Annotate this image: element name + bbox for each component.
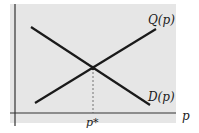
equilibrium-point <box>91 66 95 70</box>
equilibrium-price-label: p* <box>86 117 99 128</box>
supply-curve <box>35 29 156 103</box>
demand-curve-label: D(p) <box>148 91 175 103</box>
supply-curve-label: Q(p) <box>148 14 175 26</box>
x-axis-label: p <box>182 110 190 122</box>
